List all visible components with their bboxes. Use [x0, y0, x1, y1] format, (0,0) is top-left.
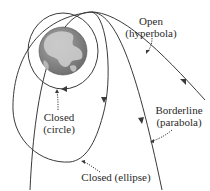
circle-label: Closed (circle) [38, 111, 80, 135]
earth-icon [39, 27, 87, 75]
parabola-label: Borderline (parabola) [150, 104, 208, 128]
orbit-paths [0, 0, 210, 191]
ellipse-label-line1: Closed (ellipse) [76, 171, 156, 183]
hyperbola-label: Open (hyperbola) [125, 15, 177, 39]
ellipse-label: Closed (ellipse) [76, 171, 156, 183]
parabola-label-line2: (parabola) [150, 116, 208, 128]
hyperbola-label-line1: Open [125, 15, 177, 27]
hyperbola-label-line2: (hyperbola) [125, 27, 177, 39]
hyperbola-direction-arrow [180, 79, 186, 85]
parabola-direction-arrow [138, 117, 144, 124]
circle-label-line1: Closed [38, 111, 80, 123]
parabola-label-line1: Borderline [150, 104, 208, 116]
circle-direction-arrow [61, 86, 67, 92]
orbit-diagram: Open (hyperbola) Closed (circle) Borderl… [0, 0, 210, 191]
circle-label-line2: (circle) [38, 123, 80, 135]
